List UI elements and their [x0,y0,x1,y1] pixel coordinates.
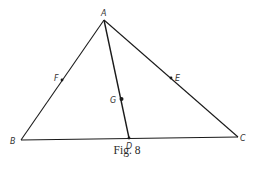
point-e-dot [170,77,173,80]
figure-caption: Fig. 8 [0,144,254,156]
label-f: F [54,74,59,83]
point-g-dot [120,97,124,101]
point-d-dot [128,137,131,140]
label-e: E [175,74,181,83]
label-a: A [100,9,106,18]
label-g: G [110,96,116,105]
median-ad [104,20,129,138]
point-f-dot [61,79,64,82]
label-c: C [240,134,246,143]
